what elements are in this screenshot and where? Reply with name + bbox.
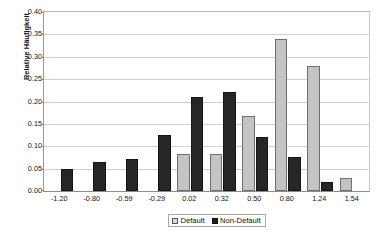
bar-group [77,12,110,191]
y-tick-label: 0.00 [18,186,42,195]
legend-swatch-default-icon [172,218,178,224]
bar-group [304,12,337,191]
y-tick-label: 0.20 [18,96,42,105]
y-tick-label: 0.15 [18,118,42,127]
bar-non-default [158,135,171,191]
x-tick-label: 0.50 [247,194,261,203]
bar-group [337,12,370,191]
legend-item-non-default: Non-Default [212,216,261,225]
bar-group [207,12,240,191]
x-tick-label: -1.20 [51,194,68,203]
bar-non-default [61,169,74,191]
x-tick-label: -0.80 [83,194,100,203]
y-tick-label: 0.40 [18,7,42,16]
y-tick-label: 0.35 [18,29,42,38]
x-tick-label: 1.54 [345,194,359,203]
y-tick-label: 0.05 [18,163,42,172]
x-tick-label: -0.59 [116,194,133,203]
bar-non-default [288,157,301,191]
y-tick-label: 0.30 [18,51,42,60]
x-tick-label: 0.32 [215,194,229,203]
bar-non-default [256,137,269,191]
y-axis-tick-labels: 0.400.350.300.250.200.150.100.050.00 [18,0,42,236]
bar-default [275,39,288,191]
legend-label: Default [181,216,205,225]
legend-label: Non-Default [220,216,261,225]
chart-legend: DefaultNon-Default [168,214,266,227]
bar-default [307,66,320,191]
bars-layer [44,12,369,191]
x-tick-label: 1.24 [312,194,326,203]
legend-swatch-non-default-icon [212,218,218,224]
bar-non-default [191,97,204,191]
bar-group [109,12,142,191]
plot-area [43,11,370,192]
bar-default [210,154,223,191]
bar-group [272,12,305,191]
x-tick-label: 0.80 [280,194,294,203]
bar-non-default [223,92,236,191]
bar-non-default [126,159,139,191]
y-tick-label: 0.10 [18,141,42,150]
x-tick-label: -0.29 [148,194,165,203]
bar-group [44,12,77,191]
x-axis-tick-labels: -1.20-0.80-0.59-0.290.020.320.500.801.24… [43,194,368,208]
bar-non-default [321,182,334,191]
bar-group [239,12,272,191]
bar-default [340,178,353,191]
bar-default [242,116,255,191]
histogram-chart: Relative Häufigkeit 0.400.350.300.250.20… [0,0,379,236]
y-tick-label: 0.25 [18,74,42,83]
legend-item-default: Default [172,216,205,225]
bar-default [177,154,190,191]
bar-non-default [93,162,106,191]
bar-group [142,12,175,191]
bar-group [174,12,207,191]
x-tick-label: 0.02 [182,194,196,203]
